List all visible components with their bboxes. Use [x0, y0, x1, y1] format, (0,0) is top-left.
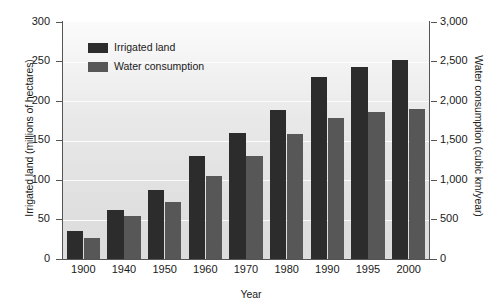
y-axis-right-tick-label: 1,500 [440, 133, 468, 145]
bar-irrigated-land [148, 190, 165, 259]
y-axis-left-tick [56, 22, 62, 23]
legend-swatch-icon [88, 62, 108, 72]
y-axis-left-tick-label: 0 [44, 252, 50, 264]
y-axis-left-tick-label: 200 [32, 94, 50, 106]
bar-water-consumption [124, 216, 141, 259]
bar-water-consumption [287, 134, 304, 259]
legend-item-water-consumption: Water consumption [88, 60, 204, 73]
bar-irrigated-land [189, 156, 206, 259]
bar-irrigated-land [311, 77, 328, 259]
y-axis-right-tick-label: 3,000 [440, 15, 468, 27]
bar-irrigated-land [229, 133, 246, 259]
y-axis-left-tick [56, 180, 62, 181]
y-axis-left-tick-label: 250 [32, 54, 50, 66]
y-axis-right-tick-label: 1,000 [440, 173, 468, 185]
bar-water-consumption [165, 202, 182, 259]
y-axis-left-tick [56, 140, 62, 141]
y-axis-left-line [62, 21, 63, 260]
y-axis-right-tick-label: 2,000 [440, 94, 468, 106]
y-axis-left-tick [56, 61, 62, 62]
bar-water-consumption [328, 118, 345, 259]
y-axis-right-tick [431, 180, 437, 181]
gridline [63, 101, 429, 102]
bar-water-consumption [206, 176, 223, 259]
x-axis-tick-label: 2000 [384, 263, 434, 275]
x-axis-title: Year [0, 288, 502, 300]
y-axis-right-tick [431, 219, 437, 220]
y-axis-right-tick [431, 140, 437, 141]
x-axis-line [62, 259, 431, 260]
y-axis-left-tick-label: 150 [32, 133, 50, 145]
legend: Irrigated land Water consumption [88, 41, 204, 79]
y-axis-right-tick [431, 101, 437, 102]
y-axis-left-tick-label: 100 [32, 173, 50, 185]
y-axis-right-tick [431, 259, 437, 260]
legend-item-irrigated-land: Irrigated land [88, 41, 204, 54]
y-axis-right-title: Water consumption (cubic km/year) [473, 21, 485, 251]
bar-water-consumption [409, 109, 426, 259]
y-axis-right-tick-label: 0 [440, 252, 446, 264]
y-axis-left-tick-label: 50 [38, 212, 50, 224]
y-axis-right-tick [431, 61, 437, 62]
y-axis-left-tick-label: 300 [32, 15, 50, 27]
bar-irrigated-land [107, 210, 124, 259]
y-axis-right-tick-label: 500 [440, 212, 458, 224]
legend-swatch-icon [88, 43, 108, 53]
bar-irrigated-land [351, 67, 368, 259]
y-axis-left-tick [56, 259, 62, 260]
legend-item-label: Irrigated land [114, 42, 175, 53]
bar-water-consumption [368, 112, 385, 259]
bar-chart: Irrigated land (millions of hectares) Wa… [0, 0, 502, 308]
y-axis-left-tick [56, 219, 62, 220]
bar-irrigated-land [392, 60, 409, 259]
y-axis-left-tick [56, 101, 62, 102]
y-axis-right-tick [431, 22, 437, 23]
bar-water-consumption [246, 156, 263, 259]
bar-water-consumption [84, 238, 101, 259]
y-axis-right-tick-label: 2,500 [440, 54, 468, 66]
legend-item-label: Water consumption [114, 61, 204, 72]
bar-irrigated-land [270, 110, 287, 259]
bar-irrigated-land [67, 231, 84, 259]
